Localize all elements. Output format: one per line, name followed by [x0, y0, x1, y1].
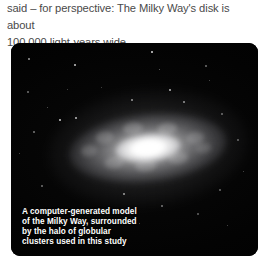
- halo-star: [33, 131, 35, 133]
- figure-caption: A computer-generated model of the Milky …: [22, 207, 202, 247]
- halo-star: [27, 91, 29, 93]
- halo-star: [219, 189, 221, 191]
- milky-way-galaxy-model: [58, 96, 236, 199]
- figure-image-panel: A computer-generated model of the Milky …: [11, 43, 258, 256]
- halo-star: [161, 205, 163, 207]
- halo-star: [28, 58, 30, 60]
- halo-star: [205, 65, 207, 67]
- halo-star: [41, 185, 43, 187]
